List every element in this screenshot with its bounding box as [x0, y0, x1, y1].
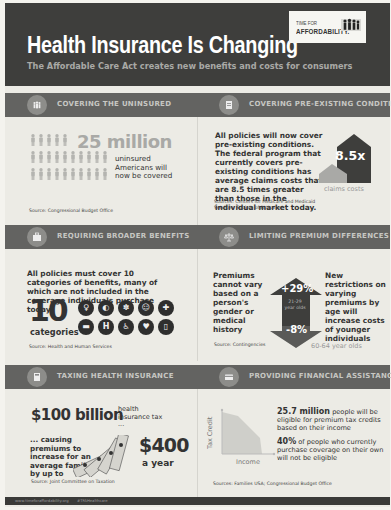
- column-divider: [197, 117, 198, 225]
- source-financial: Sources: Families USA; Congressional Bud…: [213, 481, 332, 487]
- section-bar-pre-existing: COVERING PRE-EXISTING CONDITIONS: [197, 93, 390, 117]
- logo-people-icon: [341, 17, 361, 31]
- scales-icon: [224, 232, 234, 242]
- section-bar-benefits: REQUIRING BROADER BENEFITS: [5, 225, 197, 249]
- source-uninsured: Source: Congressional Budget Office: [29, 208, 113, 214]
- tax-note: health insurance tax ...: [118, 406, 168, 429]
- category-icons: ♀ ◐ ✽ ☺ ✚ ▬ H ♿ ♥ ▯: [78, 300, 176, 335]
- logo-line1: TIME FOR: [296, 20, 317, 26]
- hospital-icon: H: [98, 319, 114, 335]
- section-title: COVERING PRE-EXISTING CONDITIONS: [249, 100, 391, 108]
- people-icon: [32, 100, 42, 110]
- child-icon: ☺: [138, 300, 154, 316]
- column-divider: [197, 389, 198, 497]
- calculator-icon: [32, 372, 42, 382]
- categories-count: 10: [29, 297, 67, 325]
- section-badge: [219, 367, 239, 387]
- section-title: TAXING HEALTH INSURANCE: [57, 372, 174, 380]
- section-badge: [27, 95, 47, 115]
- credit-card-icon: [224, 372, 234, 382]
- tax-total: $100 billion: [31, 406, 123, 424]
- section-title: COVERING THE UNINSURED: [57, 100, 171, 108]
- section-title: REQUIRING BROADER BENEFITS: [57, 232, 190, 240]
- fish-oil-icon: ✚: [158, 300, 174, 316]
- section-title: LIMITING PREMIUM DIFFERENCES: [249, 232, 389, 240]
- young-age-label: 21-29 year olds: [283, 299, 307, 310]
- header: Health Insurance Is Changing The Afforda…: [5, 3, 390, 86]
- annual-increase-label: a year: [142, 458, 174, 468]
- heart-icon: ♥: [138, 319, 154, 335]
- claims-label: claims costs: [324, 185, 364, 193]
- uninsured-text: uninsured Americans will now be covered: [115, 155, 175, 181]
- footer-website[interactable]: www.timeforaffordability.org: [15, 498, 69, 503]
- claims-multiplier: 8.5x: [335, 148, 365, 163]
- page-title: Health Insurance Is Changing: [27, 32, 298, 59]
- logo: TIME FOR AFFORDABILITY.: [289, 11, 366, 43]
- tax-credit-chart: [210, 408, 276, 456]
- infographic: Health Insurance Is Changing The Afforda…: [5, 3, 390, 507]
- brain-icon: ✽: [118, 300, 134, 316]
- premium-right-text: New restrictions on varying premiums by …: [325, 271, 389, 343]
- source-taxing: Source: Joint Committee on Taxation: [31, 479, 115, 485]
- source-pre-existing: Sources: Centers for Medicare and Medica…: [214, 199, 324, 211]
- ambulance-icon: ▬: [78, 319, 94, 335]
- section-badge: [27, 227, 47, 247]
- old-decrease-value: -8%: [286, 324, 307, 335]
- column-divider: [197, 249, 198, 361]
- footer-hashtag: #TFAHealthcare: [77, 498, 108, 503]
- annual-increase: $400: [139, 434, 189, 456]
- uninsured-count: 25 million: [77, 131, 172, 152]
- section-title: PROVIDING FINANCIAL ASSISTANCE: [249, 372, 391, 380]
- categories-label: categories: [30, 327, 79, 337]
- chart-y-label: Tax Credit: [206, 417, 214, 449]
- eligible-count: 25.7 million: [277, 407, 330, 416]
- rehab-icon: ♿: [118, 319, 134, 335]
- page-subtitle: The Affordable Care Act creates new bene…: [27, 61, 352, 71]
- source-benefits: Source: Health and Human Services: [29, 344, 112, 350]
- medical-kit-icon: [32, 232, 42, 242]
- old-age-label: 60-64 year olds: [311, 342, 362, 350]
- pill-icon: ◐: [98, 300, 114, 316]
- young-increase-value: +29%: [281, 283, 313, 294]
- premium-left-text: Premiums cannot vary based on a person's…: [213, 271, 263, 334]
- section-bar-premium-differences: LIMITING PREMIUM DIFFERENCES: [197, 225, 390, 249]
- section-badge: [219, 227, 239, 247]
- source-premium: Source: Contingencies: [214, 342, 265, 348]
- ineligible-stat: 40% of people who currently purchase cov…: [277, 438, 387, 462]
- section-bar-taxing: TAXING HEALTH INSURANCE: [5, 365, 197, 389]
- section-bar-financial-assistance: PROVIDING FINANCIAL ASSISTANCE: [197, 365, 390, 389]
- chart-x-label: Income: [236, 458, 260, 466]
- money-icon: [73, 435, 135, 477]
- maternity-icon: ♀: [78, 300, 94, 316]
- ineligible-percent: 40%: [277, 437, 296, 446]
- section-badge: [219, 95, 239, 115]
- document-icon: [224, 100, 234, 110]
- eligible-stat: 25.7 million people will be eligible for…: [277, 408, 387, 432]
- section-bar-uninsured: COVERING THE UNINSURED: [5, 93, 197, 117]
- footer: www.timeforaffordability.org #TFAHealthc…: [5, 497, 390, 505]
- section-badge: [27, 367, 47, 387]
- lab-icon: ▯: [158, 319, 174, 335]
